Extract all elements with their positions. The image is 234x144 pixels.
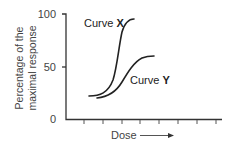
x-axis-arrow-icon xyxy=(140,133,174,138)
axes xyxy=(62,14,222,120)
y-axis-line xyxy=(62,14,222,120)
y-axis-title-line1: Percentage of the xyxy=(13,26,25,109)
curve-x-label-prefix: Curve xyxy=(84,17,116,29)
dose-response-chart: Percentage of the maximal response 100 5… xyxy=(0,0,234,144)
y-axis-title-line2: maximal response xyxy=(26,25,38,110)
curve-y-label-letter: Y xyxy=(162,74,170,86)
y-tick-label-50: 50 xyxy=(44,61,56,73)
curve-x-line xyxy=(89,19,134,96)
curve-y-label: Curve Y xyxy=(130,74,170,86)
y-axis-title: Percentage of the maximal response xyxy=(13,25,38,110)
x-axis-title: Dose xyxy=(111,129,137,141)
curve-x-label: Curve X xyxy=(84,17,124,29)
y-tick-label-0: 0 xyxy=(50,113,56,125)
curve-x-label-letter: X xyxy=(116,17,124,29)
curve-y-label-prefix: Curve xyxy=(130,74,162,86)
x-ticks xyxy=(84,120,216,124)
y-tick-label-100: 100 xyxy=(38,8,56,20)
